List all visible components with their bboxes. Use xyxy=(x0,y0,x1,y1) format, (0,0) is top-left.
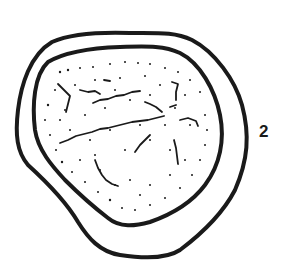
stipple-dots xyxy=(44,61,208,211)
figure-label: 2 xyxy=(259,122,268,142)
specimen-drawing xyxy=(0,0,290,267)
crack-lines xyxy=(58,80,198,186)
